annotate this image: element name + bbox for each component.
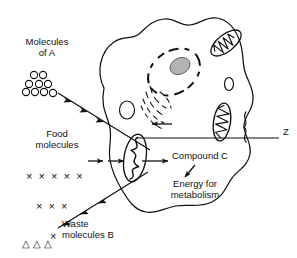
mitochondrion-top-right [207,25,246,61]
molecules-a-glyphs [22,71,56,96]
pointer-z-label: Z [283,126,289,137]
food-glyph-row: × × × [26,201,83,211]
molecules-a-label: Molecules of A [14,36,80,58]
waste-molecule-glyphs: △ △ △ △ △ △ △ [22,216,63,258]
waste-glyph-row: △ △ △ [22,238,63,249]
vesicle-right [225,78,234,91]
nucleolus [167,54,193,78]
vesicle-left [120,101,135,119]
food-glyph-row: × × × × × [26,171,83,181]
energy-arrow [185,165,195,177]
compound-c-label: Compound C [172,150,228,161]
food-molecules-label: Food molecules [24,128,90,150]
energy-label: Energy for metabolism [157,178,233,200]
mitochondrion-bottom-right [211,102,233,142]
